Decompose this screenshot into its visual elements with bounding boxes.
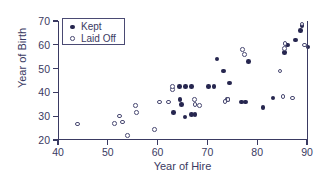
x-axis-tick-label: 50 [95,147,121,158]
data-point-laid-off [282,46,287,51]
data-point-laid-off [125,133,130,138]
data-point-laid-off [166,100,171,105]
x-axis-tick-label: 70 [194,147,220,158]
x-axis-tick-label: 60 [145,147,171,158]
data-point-laid-off [152,127,157,132]
data-point-laid-off [134,110,139,115]
y-axis-tick-label: 70 [28,16,50,27]
data-point-kept [243,100,248,105]
x-axis-tick-label: 40 [45,147,71,158]
y-axis-tick-label: 30 [28,111,50,122]
y-axis-tick-label: 20 [28,135,50,146]
data-point-laid-off [192,97,197,102]
x-axis-tick [157,140,158,145]
data-point-laid-off [112,121,117,126]
legend-entry-laid-off: Laid Off [68,33,124,45]
data-point-kept [183,84,188,89]
plot-frame-right-edge [307,21,308,140]
data-point-kept [183,115,188,120]
data-point-kept [227,81,232,86]
legend-label-laid-off: Laid Off [77,33,116,45]
data-point-kept [189,84,194,89]
y-axis-tick-label: 50 [28,64,50,75]
data-point-kept [271,96,276,101]
data-point-laid-off [226,97,231,102]
data-point-kept [293,38,298,43]
data-point-laid-off [117,114,122,119]
scatter-chart: 203040506070 405060708090 Year of Hire Y… [0,0,326,181]
data-point-kept [206,84,211,89]
data-point-laid-off [290,96,295,101]
data-point-laid-off [170,84,175,89]
data-point-kept [221,69,226,74]
data-point-kept [177,84,182,89]
x-axis-title: Year of Hire [58,160,307,172]
data-point-laid-off [75,122,80,127]
data-point-laid-off [120,120,125,125]
data-point-kept [193,112,198,117]
data-point-kept [298,28,303,33]
data-point-kept [261,105,266,110]
data-point-laid-off [278,69,283,74]
y-axis-tick-label: 60 [28,40,50,51]
y-axis-tick-label: 40 [28,87,50,98]
x-axis-tick [57,140,58,145]
data-point-laid-off [197,103,202,108]
data-point-kept [246,59,251,64]
open-circle-icon [68,36,77,41]
x-axis-tick [257,140,258,145]
chart-legend: Kept Laid Off [62,18,125,45]
data-point-kept [212,84,217,89]
x-axis-tick [107,140,108,145]
x-axis-tick [306,140,307,145]
data-point-kept [171,110,176,115]
x-axis-tick-label: 90 [294,147,320,158]
data-point-laid-off [242,52,247,57]
filled-circle-icon [68,25,77,29]
x-axis-tick-label: 80 [244,147,270,158]
legend-label-kept: Kept [77,21,102,33]
data-point-kept [179,102,184,107]
y-axis-title: Year of Birth [16,0,28,128]
legend-entry-kept: Kept [68,21,124,33]
x-axis-tick [207,140,208,145]
data-point-kept [215,57,220,62]
data-point-kept [178,97,183,102]
data-point-laid-off [281,94,286,99]
data-point-laid-off [157,100,162,105]
data-point-kept [282,50,287,55]
data-point-laid-off [133,103,138,108]
